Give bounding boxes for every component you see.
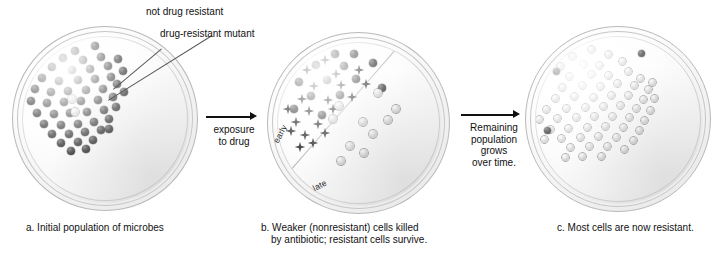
cell-resistant xyxy=(604,143,611,150)
cell-resistant xyxy=(620,124,627,131)
cell-susceptible xyxy=(57,139,65,147)
caption-panel-b-line1: b. Weaker (nonresistant) cells killed xyxy=(261,222,419,234)
callout-drug-resistant-mutant: drug-resistant mutant xyxy=(160,28,255,39)
cell-susceptible xyxy=(40,120,48,128)
cell-susceptible xyxy=(74,76,82,84)
cell-susceptible xyxy=(82,86,90,94)
cell-resistant xyxy=(645,86,652,93)
cell-susceptible xyxy=(290,105,298,113)
cell-susceptible xyxy=(38,74,46,82)
cell-susceptible xyxy=(59,54,67,62)
cell-susceptible xyxy=(112,103,120,111)
cell-susceptible xyxy=(307,92,315,100)
cell-resistant xyxy=(641,117,648,124)
cell-resistant xyxy=(617,102,624,109)
cell-resistant xyxy=(621,146,628,153)
cell-susceptible xyxy=(638,50,645,57)
arrow-remaining-population-grows: Remaining population grows over time. xyxy=(457,110,531,168)
cell-resistant xyxy=(609,113,616,120)
cell-resistant xyxy=(359,118,367,126)
cell-susceptible xyxy=(350,50,358,58)
cell-susceptible xyxy=(31,85,39,93)
cell-resistant xyxy=(640,96,647,103)
cell-resistant xyxy=(569,53,576,60)
cell-susceptible xyxy=(352,75,360,83)
figure-root: not drug resistant drug-resistant mutant… xyxy=(0,0,722,263)
cell-susceptible xyxy=(57,121,65,129)
cell-resistant xyxy=(337,157,345,165)
cell-susceptible xyxy=(64,87,72,95)
cell-susceptible xyxy=(90,118,98,126)
cell-susceptible xyxy=(312,61,320,69)
cell-susceptible xyxy=(369,59,377,67)
cell-susceptible xyxy=(114,55,122,63)
cell-resistant xyxy=(329,115,337,123)
cell-resistant xyxy=(565,125,572,132)
cell-susceptible xyxy=(55,77,63,85)
arrow-shaft-1 xyxy=(206,112,262,121)
cell-resistant xyxy=(566,73,573,80)
cell-resistant xyxy=(588,46,595,53)
caption-panel-a: a. Initial population of microbes xyxy=(26,222,164,234)
callout-not-drug-resistant: not drug resistant xyxy=(146,6,223,17)
cell-resistant xyxy=(605,51,612,58)
cell-resistant xyxy=(563,105,570,112)
cell-resistant xyxy=(595,133,602,140)
cell-resistant xyxy=(559,84,566,91)
cell-killed xyxy=(304,106,315,117)
cell-susceptible xyxy=(91,42,99,50)
cell-resistant xyxy=(369,130,377,138)
cell-susceptible xyxy=(295,78,303,86)
cell-resistant xyxy=(586,143,593,150)
cell-resistant xyxy=(633,105,640,112)
cell-susceptible xyxy=(100,106,108,114)
cell-susceptible xyxy=(119,67,127,75)
cell-resistant xyxy=(619,58,626,65)
cell-susceptible xyxy=(86,65,94,73)
cell-killed xyxy=(309,81,320,92)
cell-resistant xyxy=(625,92,632,99)
cell-resistant xyxy=(541,136,548,143)
cell-resistant xyxy=(558,135,565,142)
cell-susceptible xyxy=(331,50,339,58)
cell-resistant xyxy=(571,93,578,100)
cell-susceptible xyxy=(89,136,97,144)
cell-susceptible xyxy=(104,62,112,70)
cell-resistant xyxy=(567,144,574,151)
cell-resistant xyxy=(68,95,76,103)
arrow-label-population: population xyxy=(457,134,531,146)
cell-susceptible xyxy=(340,62,348,70)
cell-killed xyxy=(354,65,365,76)
cell-susceptible xyxy=(99,85,107,93)
arrow-label-exposure: exposure xyxy=(206,124,262,136)
cell-resistant xyxy=(536,116,543,123)
cell-susceptible xyxy=(318,111,326,119)
arrow-label-to-drug: to drug xyxy=(206,136,262,148)
cell-resistant xyxy=(582,104,589,111)
cell-susceptible xyxy=(74,120,82,128)
cell-resistant xyxy=(630,137,637,144)
cell-resistant xyxy=(392,105,400,113)
cell-resistant xyxy=(647,107,654,114)
cell-susceptible xyxy=(97,126,105,134)
cell-resistant xyxy=(651,95,658,102)
cell-resistant xyxy=(580,61,587,68)
cell-susceptible xyxy=(33,109,41,117)
cell-resistant xyxy=(579,153,586,160)
arrow-shaft-2 xyxy=(457,110,531,119)
cell-resistant xyxy=(614,80,621,87)
cell-killed xyxy=(291,117,302,128)
cell-susceptible xyxy=(27,97,35,105)
cell-resistant xyxy=(637,75,644,82)
cell-resistant xyxy=(552,95,559,102)
cell-resistant xyxy=(335,102,343,110)
arrow-label-grows: grows xyxy=(457,145,531,157)
cell-resistant xyxy=(649,79,656,86)
cell-resistant xyxy=(600,103,607,110)
cell-resistant xyxy=(608,92,615,99)
cell-susceptible xyxy=(97,53,105,61)
cell-resistant xyxy=(577,134,584,141)
cell-killed xyxy=(320,55,331,66)
cell-resistant xyxy=(573,114,580,121)
cell-susceptible xyxy=(107,73,115,81)
